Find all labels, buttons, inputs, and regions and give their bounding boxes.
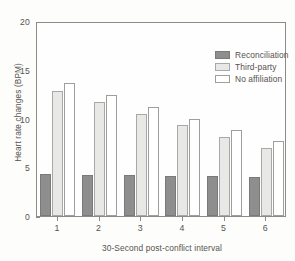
y-tick-label: 10 xyxy=(0,115,30,125)
bar xyxy=(82,175,93,216)
x-tick-label: 6 xyxy=(253,223,277,233)
bar xyxy=(148,107,159,216)
y-tick-mark xyxy=(36,217,40,218)
x-tick-mark xyxy=(182,217,183,221)
x-axis-title: 30-Second post-conflict interval xyxy=(33,243,291,253)
bar xyxy=(219,137,230,216)
x-tick-mark xyxy=(224,217,225,221)
bar xyxy=(207,176,218,216)
x-tick-label: 5 xyxy=(212,223,236,233)
bar xyxy=(64,83,75,216)
y-tick-label: 5 xyxy=(0,163,30,173)
x-tick-mark xyxy=(99,217,100,221)
legend-label: No affiliation xyxy=(235,74,282,85)
legend-swatch xyxy=(215,63,230,71)
bar xyxy=(273,141,284,216)
bar xyxy=(165,176,176,216)
bar xyxy=(40,174,51,216)
plot-area: ReconciliationThird-partyNo affiliation xyxy=(36,22,286,217)
x-tick-mark xyxy=(265,217,266,221)
x-tick-label: 3 xyxy=(128,223,152,233)
bar xyxy=(94,102,105,216)
bar xyxy=(189,119,200,217)
bar xyxy=(177,125,188,216)
x-tick-mark xyxy=(140,217,141,221)
bar xyxy=(124,175,135,216)
legend-swatch xyxy=(215,75,230,83)
x-tick-label: 4 xyxy=(170,223,194,233)
bar xyxy=(261,148,272,216)
chart-figure: Heart rate changes (BPM) 05101520 123456… xyxy=(0,0,295,261)
x-tick-label: 2 xyxy=(87,223,111,233)
legend-label: Third-party xyxy=(235,62,277,73)
bar xyxy=(249,177,260,216)
x-tick-label: 1 xyxy=(45,223,69,233)
x-tick-mark xyxy=(57,217,58,221)
bar xyxy=(231,130,242,216)
bar xyxy=(136,114,147,216)
y-tick-label: 20 xyxy=(0,17,30,27)
y-tick-label: 0 xyxy=(0,212,30,222)
bar xyxy=(106,95,117,216)
legend-label: Reconciliation xyxy=(235,50,289,61)
bar xyxy=(52,91,63,216)
y-tick-label: 15 xyxy=(0,66,30,76)
legend-swatch xyxy=(215,51,230,59)
